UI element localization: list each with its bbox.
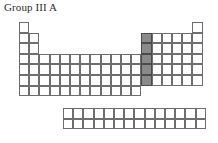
element-cell <box>152 64 162 75</box>
highlighted-group-cell <box>141 43 151 54</box>
element-cell <box>172 43 182 54</box>
element-cell <box>80 86 90 97</box>
element-cell <box>111 86 121 97</box>
f-block-cell <box>134 119 144 130</box>
element-cell <box>29 64 39 75</box>
element-cell <box>50 75 60 86</box>
element-cell <box>162 54 172 65</box>
highlighted-group-cell <box>141 64 151 75</box>
element-cell <box>80 75 90 86</box>
f-block-cell <box>124 119 134 130</box>
element-cell <box>19 43 29 54</box>
f-block-cell <box>196 108 206 119</box>
f-block-cell <box>114 108 124 119</box>
element-cell <box>101 54 111 65</box>
element-cell <box>39 75 49 86</box>
element-cell <box>172 33 182 44</box>
f-block-cell <box>83 108 93 119</box>
element-cell <box>101 64 111 75</box>
element-cell <box>70 75 80 86</box>
element-cell <box>39 86 49 97</box>
element-cell <box>192 54 202 65</box>
element-cell <box>90 75 100 86</box>
periodic-table-grid <box>0 0 218 143</box>
element-cell <box>172 64 182 75</box>
f-block-cell <box>94 108 104 119</box>
element-cell <box>90 54 100 65</box>
element-cell <box>29 54 39 65</box>
element-cell <box>121 54 131 65</box>
f-block-cell <box>155 108 165 119</box>
element-cell <box>182 75 192 86</box>
element-cell <box>19 54 29 65</box>
element-cell <box>172 75 182 86</box>
element-cell <box>29 43 39 54</box>
element-cell <box>172 54 182 65</box>
element-cell <box>60 54 70 65</box>
element-cell <box>192 22 202 33</box>
element-cell <box>131 54 141 65</box>
f-block-cell <box>155 119 165 130</box>
f-block-cell <box>83 119 93 130</box>
f-block-cell <box>73 119 83 130</box>
f-block-cell <box>196 119 206 130</box>
element-cell <box>192 33 202 44</box>
element-cell <box>162 64 172 75</box>
f-block-cell <box>94 119 104 130</box>
f-block-cell <box>63 108 73 119</box>
element-cell <box>60 86 70 97</box>
f-block-cell <box>63 119 73 130</box>
f-block-cell <box>114 119 124 130</box>
element-cell <box>50 64 60 75</box>
element-cell <box>50 86 60 97</box>
element-cell <box>162 33 172 44</box>
element-cell <box>39 64 49 75</box>
element-cell <box>101 75 111 86</box>
element-cell <box>60 75 70 86</box>
element-cell <box>182 43 192 54</box>
f-block-cell <box>165 119 175 130</box>
f-block-cell <box>175 119 185 130</box>
element-cell <box>131 86 141 97</box>
f-block-cell <box>134 108 144 119</box>
f-block-cell <box>185 108 195 119</box>
f-block-cell <box>104 119 114 130</box>
element-cell <box>162 75 172 86</box>
element-cell <box>70 54 80 65</box>
element-cell <box>60 64 70 75</box>
f-block-cell <box>104 108 114 119</box>
element-cell <box>101 86 111 97</box>
element-cell <box>19 86 29 97</box>
element-cell <box>80 64 90 75</box>
element-cell <box>121 86 131 97</box>
element-cell <box>70 86 80 97</box>
element-cell <box>131 64 141 75</box>
element-cell <box>70 64 80 75</box>
f-block-cell <box>185 119 195 130</box>
element-cell <box>152 75 162 86</box>
element-cell <box>182 33 192 44</box>
element-cell <box>111 64 121 75</box>
element-cell <box>111 54 121 65</box>
f-block-cell <box>145 119 155 130</box>
highlighted-group-cell <box>141 75 151 86</box>
element-cell <box>80 54 90 65</box>
f-block-cell <box>124 108 134 119</box>
element-cell <box>19 22 29 33</box>
element-cell <box>182 64 192 75</box>
element-cell <box>152 33 162 44</box>
f-block-cell <box>175 108 185 119</box>
element-cell <box>39 54 49 65</box>
element-cell <box>192 75 202 86</box>
element-cell <box>121 64 131 75</box>
f-block-cell <box>145 108 155 119</box>
element-cell <box>29 33 39 44</box>
element-cell <box>192 43 202 54</box>
element-cell <box>19 33 29 44</box>
element-cell <box>152 54 162 65</box>
f-block-cell <box>73 108 83 119</box>
element-cell <box>29 86 39 97</box>
element-cell <box>50 54 60 65</box>
f-block-cell <box>165 108 175 119</box>
highlighted-group-cell <box>141 54 151 65</box>
